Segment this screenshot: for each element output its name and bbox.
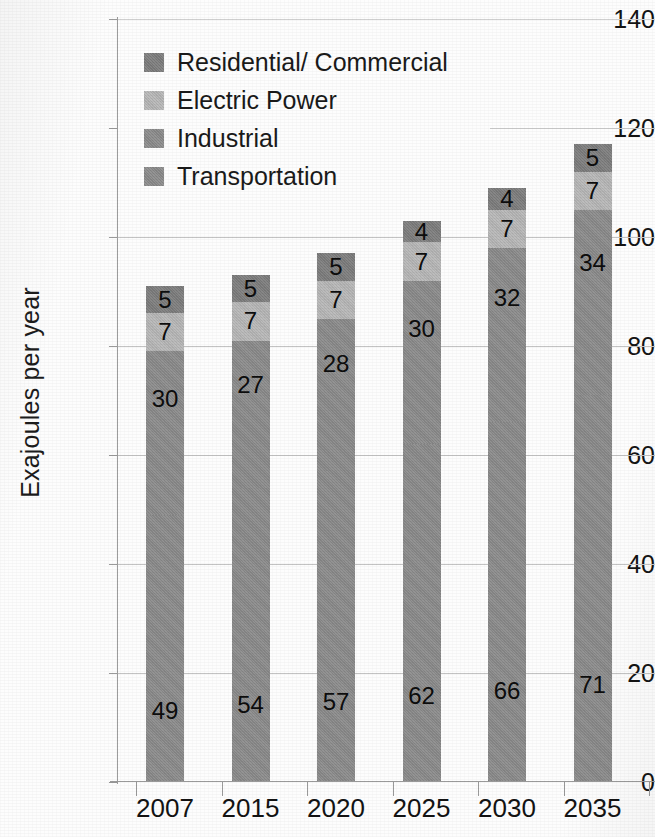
legend-item[interactable]: Industrial bbox=[144, 119, 444, 157]
bar-segment[interactable]: 5 bbox=[317, 253, 355, 280]
bar-segment-value-label: 5 bbox=[244, 277, 257, 301]
x-axis-tick-mark bbox=[649, 782, 650, 796]
legend-item-label: Electric Power bbox=[177, 88, 337, 113]
gridline bbox=[490, 128, 655, 129]
legend-item[interactable]: Electric Power bbox=[144, 81, 444, 119]
bar-segment[interactable]: 7 bbox=[232, 302, 270, 340]
bar-segment[interactable]: 5 bbox=[574, 144, 612, 171]
bar-segment-value-label: 32 bbox=[494, 286, 521, 310]
bar-segment-value-label: 5 bbox=[329, 255, 342, 279]
bar-segment[interactable]: 34 bbox=[574, 210, 612, 395]
bar-segment-value-label: 7 bbox=[415, 250, 428, 274]
bar-segment[interactable]: 27 bbox=[232, 341, 270, 488]
legend-swatch-icon bbox=[144, 167, 164, 186]
bar-segment[interactable]: 7 bbox=[488, 210, 526, 248]
x-axis-tick-label: 2035 bbox=[538, 793, 648, 824]
bar-segment-value-label: 5 bbox=[586, 146, 599, 170]
bar-segment[interactable]: 7 bbox=[146, 313, 184, 351]
y-axis-title: Exajoules per year bbox=[16, 213, 45, 573]
bar-segment-value-label: 57 bbox=[323, 690, 350, 714]
bar-segment[interactable]: 7 bbox=[574, 172, 612, 210]
bar-segment[interactable]: 28 bbox=[317, 319, 355, 472]
bar-segment[interactable]: 5 bbox=[232, 275, 270, 302]
stacked-bar-chart: Exajoules per year 020406080100120140 49… bbox=[0, 0, 655, 837]
bar-segment-value-label: 7 bbox=[158, 320, 171, 344]
bar-segment[interactable]: 62 bbox=[403, 444, 441, 782]
bar-segment-value-label: 30 bbox=[152, 387, 179, 411]
bar-segment[interactable]: 30 bbox=[146, 351, 184, 515]
bar-segment-value-label: 49 bbox=[152, 699, 179, 723]
bar-segment-value-label: 62 bbox=[408, 684, 435, 708]
bar-segment[interactable]: 54 bbox=[232, 488, 270, 782]
bar-segment-value-label: 7 bbox=[586, 179, 599, 203]
y-axis-line bbox=[117, 17, 118, 784]
legend-swatch-icon bbox=[144, 91, 164, 110]
bar-segment[interactable]: 30 bbox=[403, 281, 441, 445]
bar-segment[interactable]: 71 bbox=[574, 395, 612, 782]
bar-segment-value-label: 7 bbox=[500, 217, 513, 241]
bar-segment-value-label: 5 bbox=[158, 288, 171, 312]
bar-segment-value-label: 34 bbox=[579, 251, 606, 275]
bar-segment-value-label: 54 bbox=[237, 693, 264, 717]
bar-segment[interactable]: 32 bbox=[488, 248, 526, 422]
legend-swatch-icon bbox=[144, 53, 164, 72]
legend: Residential/ CommercialElectric PowerInd… bbox=[144, 43, 444, 195]
bar-segment-value-label: 28 bbox=[323, 352, 350, 376]
bar-segment-value-label: 30 bbox=[408, 317, 435, 341]
bar-segment-value-label: 27 bbox=[237, 373, 264, 397]
legend-item-label: Residential/ Commercial bbox=[177, 50, 448, 75]
bar-segment-value-label: 71 bbox=[579, 673, 606, 697]
legend-item-label: Industrial bbox=[177, 126, 278, 151]
bar-segment[interactable]: 5 bbox=[146, 286, 184, 313]
bar-segment-value-label: 66 bbox=[494, 679, 521, 703]
bar-segment-value-label: 4 bbox=[415, 220, 428, 244]
bar-segment-value-label: 4 bbox=[500, 187, 513, 211]
legend-item[interactable]: Transportation bbox=[144, 157, 444, 195]
legend-item[interactable]: Residential/ Commercial bbox=[144, 43, 444, 81]
bar-segment[interactable]: 66 bbox=[488, 422, 526, 782]
bar-segment-value-label: 7 bbox=[244, 309, 257, 333]
bar-segment[interactable]: 4 bbox=[488, 188, 526, 210]
bar-segment[interactable]: 7 bbox=[403, 242, 441, 280]
bar-segment[interactable]: 49 bbox=[146, 515, 184, 782]
gridline bbox=[117, 19, 655, 20]
legend-item-label: Transportation bbox=[177, 164, 337, 189]
x-axis-line bbox=[110, 781, 655, 782]
bar-segment-value-label: 7 bbox=[329, 288, 342, 312]
bar-segment[interactable]: 7 bbox=[317, 281, 355, 319]
bar-segment[interactable]: 57 bbox=[317, 471, 355, 782]
bar-segment[interactable]: 4 bbox=[403, 221, 441, 243]
legend-swatch-icon bbox=[144, 129, 164, 148]
